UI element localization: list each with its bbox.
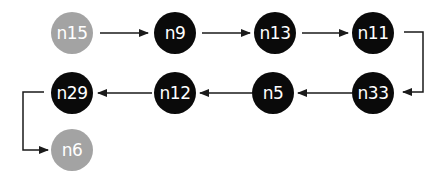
- edge-n11-n33: [403, 32, 423, 92]
- node-n9: n9: [154, 12, 196, 54]
- node-label: n11: [358, 23, 389, 43]
- node-label: n29: [57, 83, 88, 103]
- node-n12: n12: [154, 72, 196, 114]
- node-n33: n33: [352, 72, 394, 114]
- node-n11: n11: [352, 12, 394, 54]
- node-label: n15: [57, 23, 88, 43]
- edge-n29-n6: [23, 92, 48, 150]
- node-n29: n29: [51, 72, 93, 114]
- node-label: n12: [160, 83, 191, 103]
- node-label: n13: [260, 23, 291, 43]
- node-label: n5: [263, 83, 284, 103]
- node-n6: n6: [51, 129, 93, 171]
- node-label: n33: [358, 83, 389, 103]
- linked-list-diagram: n15 n9 n13 n11 n33 n5 n12 n29 n6: [0, 0, 433, 174]
- node-n15: n15: [51, 12, 93, 54]
- node-label: n6: [62, 140, 83, 160]
- node-n5: n5: [252, 72, 294, 114]
- node-label: n9: [165, 23, 186, 43]
- node-n13: n13: [254, 12, 296, 54]
